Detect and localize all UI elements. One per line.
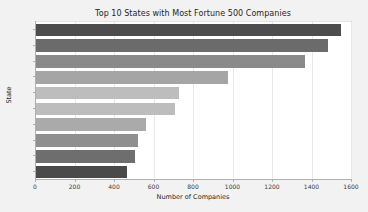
bar-mn[interactable] [35, 166, 127, 179]
bar-slot [35, 148, 351, 164]
gridline [351, 22, 352, 180]
x-tick-label: 0 [33, 183, 37, 190]
bar-slot [35, 164, 351, 180]
x-tick-mark [233, 180, 234, 182]
plot-area [35, 21, 352, 180]
x-tick-label: 800 [187, 183, 198, 190]
y-tick-mark [33, 108, 35, 109]
x-tick-mark [312, 180, 313, 182]
bar-mi[interactable] [35, 150, 135, 163]
y-tick-mark [33, 29, 35, 30]
bar-slot [35, 133, 351, 149]
figure-canvas: Top 10 States with Most Fortune 500 Comp… [3, 3, 365, 209]
x-tick-mark [193, 180, 194, 182]
bar-slot [35, 117, 351, 133]
bar-nj[interactable] [35, 118, 146, 131]
x-tick-label: 1400 [304, 183, 319, 190]
bar-slot [35, 69, 351, 85]
x-tick-mark [154, 180, 155, 182]
x-tick-label: 1000 [225, 183, 240, 190]
bar-tx[interactable] [35, 55, 305, 68]
bar-ny[interactable] [35, 24, 341, 37]
bar-ca[interactable] [35, 39, 328, 52]
bar-oh[interactable] [35, 87, 179, 100]
y-tick-mark [33, 45, 35, 46]
bar-il[interactable] [35, 71, 228, 84]
bar-pa[interactable] [35, 103, 175, 116]
chart-title: Top 10 States with Most Fortune 500 Comp… [35, 9, 351, 18]
y-axis-label: State [5, 75, 13, 115]
bar-slot [35, 101, 351, 117]
bar-slot [35, 85, 351, 101]
y-tick-mark [33, 155, 35, 156]
y-tick-mark [33, 61, 35, 62]
chart-figure: Top 10 States with Most Fortune 500 Comp… [0, 0, 368, 212]
y-tick-mark [33, 124, 35, 125]
bar-va[interactable] [35, 134, 138, 147]
x-tick-mark [75, 180, 76, 182]
bar-slot [35, 38, 351, 54]
x-tick-mark [114, 180, 115, 182]
x-tick-mark [351, 180, 352, 182]
x-tick-mark [35, 180, 36, 182]
bar-slot [35, 22, 351, 38]
y-tick-mark [33, 92, 35, 93]
bar-slot [35, 54, 351, 70]
x-tick-label: 200 [69, 183, 80, 190]
x-tick-label: 600 [148, 183, 159, 190]
x-axis-label: Number of Companies [35, 193, 351, 201]
x-tick-label: 1200 [264, 183, 279, 190]
bar-series [35, 22, 351, 180]
x-tick-label: 400 [108, 183, 119, 190]
x-tick-label: 1600 [343, 183, 358, 190]
y-axis-line [35, 21, 36, 180]
y-tick-mark [33, 171, 35, 172]
x-tick-mark [272, 180, 273, 182]
y-tick-mark [33, 76, 35, 77]
y-tick-mark [33, 140, 35, 141]
